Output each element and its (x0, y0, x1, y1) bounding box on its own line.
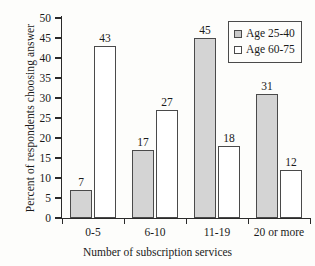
y-tick-10 (55, 177, 62, 178)
bar-11-19-Age-60-75 (218, 146, 240, 218)
value-label-6-10-Age-60-75: 27 (153, 97, 181, 109)
x-tick-0 (62, 218, 63, 224)
y-tick-label-35: 35 (24, 73, 51, 85)
x-axis-title: Number of subscription services (0, 246, 315, 258)
bar-6-10-Age-60-75 (156, 110, 178, 218)
x-tick-4 (310, 218, 311, 224)
bar-chart: Percent of respondents choosing answer 0… (0, 0, 315, 266)
y-tick-label-5: 5 (24, 193, 51, 205)
y-tick-15 (55, 157, 62, 158)
y-tick-label-15: 15 (24, 153, 51, 165)
value-label-20-or-more-Age-25-40: 31 (253, 81, 281, 93)
value-label-6-10-Age-25-40: 17 (129, 137, 157, 149)
value-label-11-19-Age-60-75: 18 (215, 133, 243, 145)
value-label-0-5-Age-60-75: 43 (91, 33, 119, 45)
y-tick-label-25: 25 (24, 113, 51, 125)
y-tick-0 (55, 217, 62, 218)
legend-label-age-60-75: Age 60-75 (246, 44, 295, 56)
y-tick-50 (55, 17, 62, 18)
y-tick-40 (55, 57, 62, 58)
legend-label-age-25-40: Age 25-40 (246, 28, 295, 40)
y-tick-label-0: 0 (24, 213, 51, 225)
y-tick-35 (55, 77, 62, 78)
y-tick-30 (55, 97, 62, 98)
value-label-11-19-Age-25-40: 45 (191, 25, 219, 37)
bar-20-or-more-Age-60-75 (280, 170, 302, 218)
x-tick-3 (248, 218, 249, 224)
y-tick-20 (55, 137, 62, 138)
legend: Age 25-40 Age 60-75 (228, 21, 302, 63)
y-tick-25 (55, 117, 62, 118)
legend-item-age-60-75: Age 60-75 (234, 42, 295, 58)
y-tick-45 (55, 37, 62, 38)
x-tick-2 (186, 218, 187, 224)
y-tick-label-45: 45 (24, 33, 51, 45)
legend-swatch-icon-age-60-75 (234, 46, 242, 54)
bar-0-5-Age-60-75 (94, 46, 116, 218)
bar-11-19-Age-25-40 (194, 38, 216, 218)
bar-6-10-Age-25-40 (132, 150, 154, 218)
value-label-20-or-more-Age-60-75: 12 (277, 157, 305, 169)
y-tick-label-40: 40 (24, 53, 51, 65)
value-label-0-5-Age-25-40: 7 (67, 177, 95, 189)
bar-0-5-Age-25-40 (70, 190, 92, 218)
legend-item-age-25-40: Age 25-40 (234, 26, 295, 42)
y-tick-label-30: 30 (24, 93, 51, 105)
y-tick-label-10: 10 (24, 173, 51, 185)
x-category-label-20-or-more: 20 or more (238, 226, 315, 239)
legend-swatch-icon-age-25-40 (234, 30, 242, 38)
x-tick-1 (124, 218, 125, 224)
y-tick-5 (55, 197, 62, 198)
y-tick-label-50: 50 (24, 13, 51, 25)
bar-20-or-more-Age-25-40 (256, 94, 278, 218)
y-tick-label-20: 20 (24, 133, 51, 145)
